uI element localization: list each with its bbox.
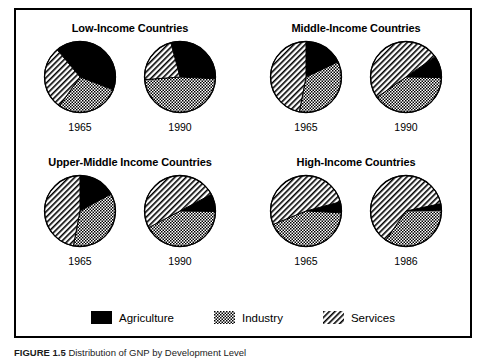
pie-chart	[43, 174, 117, 248]
pie-chart	[369, 40, 443, 114]
pie-chart	[143, 40, 217, 114]
panel-low-income: Low-Income Countries 1965 1990	[22, 22, 238, 146]
pie-year-label: 1965	[68, 121, 91, 133]
pie-year-label: 1965	[294, 255, 317, 267]
pie-cell: 1990	[367, 40, 445, 133]
figure-caption-text: Distribution of GNP by Development Level	[68, 347, 246, 358]
panel-upper-middle-income: Upper-Middle Income Countries 1965 1990	[22, 156, 238, 280]
pie-chart	[269, 174, 343, 248]
pie-pair: 1965 1990	[248, 40, 464, 133]
panel-title: High-Income Countries	[248, 156, 464, 168]
pie-chart	[43, 40, 117, 114]
pie-year-label: 1986	[394, 255, 417, 267]
pie-year-label: 1965	[294, 121, 317, 133]
figure-caption-label: FIGURE 1.5	[14, 347, 66, 358]
legend-swatch-agriculture	[91, 311, 112, 324]
pie-chart	[269, 40, 343, 114]
pie-slice-services	[270, 42, 306, 112]
panel-title: Middle-Income Countries	[248, 22, 464, 34]
pie-year-label: 1965	[68, 255, 91, 267]
pie-chart	[143, 174, 217, 248]
pie-pair: 1965 1986	[248, 174, 464, 267]
pie-year-label: 1990	[394, 121, 417, 133]
pie-pair: 1965 1990	[22, 40, 238, 133]
panel-middle-income: Middle-Income Countries 1965 1990	[248, 22, 464, 146]
pie-cell: 1965	[41, 174, 119, 267]
panel-title: Low-Income Countries	[22, 22, 238, 34]
figure-caption: FIGURE 1.5 Distribution of GNP by Develo…	[14, 347, 474, 360]
legend-label: Services	[351, 312, 395, 324]
swatch-fill	[323, 311, 344, 324]
panel-title: Upper-Middle Income Countries	[22, 156, 238, 168]
pie-cell: 1965	[267, 174, 345, 267]
panel-high-income: High-Income Countries 1965 1986	[248, 156, 464, 280]
pie-cell: 1990	[141, 174, 219, 267]
legend-item-services: Services	[323, 311, 395, 324]
legend-swatch-industry	[214, 311, 235, 324]
pie-pair: 1965 1990	[22, 174, 238, 267]
pie-cell: 1965	[267, 40, 345, 133]
chart-panel: Low-Income Countries 1965 1990 Middle-In…	[14, 8, 472, 338]
pie-cell: 1986	[367, 174, 445, 267]
legend-item-industry: Industry	[214, 311, 283, 324]
legend-swatch-services	[323, 311, 344, 324]
legend-item-agriculture: Agriculture	[91, 311, 174, 324]
pie-cell: 1990	[141, 40, 219, 133]
swatch-fill	[214, 311, 235, 324]
pie-year-label: 1990	[168, 255, 191, 267]
pie-slice-services	[44, 176, 80, 246]
figure-root: Low-Income Countries 1965 1990 Middle-In…	[0, 0, 488, 360]
legend-label: Agriculture	[119, 312, 174, 324]
pie-year-label: 1990	[168, 121, 191, 133]
pie-slice-industry	[145, 77, 216, 113]
pie-cell: 1965	[41, 40, 119, 133]
pie-chart	[369, 174, 443, 248]
legend: Agriculture Industry Services	[16, 311, 470, 324]
swatch-fill	[91, 311, 112, 324]
legend-label: Industry	[242, 312, 283, 324]
